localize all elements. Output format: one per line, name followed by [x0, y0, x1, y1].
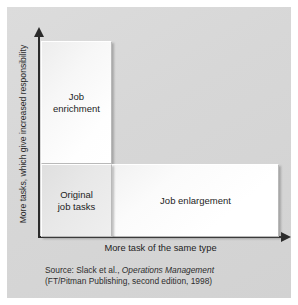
x-axis-arrowhead-icon: [281, 232, 291, 242]
job-design-matrix-figure: Job enrichment Original job tasks Job en…: [0, 0, 298, 305]
box-job-enrichment: Job enrichment: [41, 41, 112, 164]
box-original-job-tasks: Original job tasks: [41, 164, 112, 237]
y-axis-label: More tasks, which give increased respons…: [18, 34, 28, 234]
box-job-enlargement-label: Job enlargement: [160, 195, 231, 207]
x-axis-label: More task of the same type: [38, 243, 283, 253]
box-job-enlargement: Job enlargement: [112, 164, 279, 237]
source-prefix: Source: Slack et al.,: [45, 265, 122, 275]
source-line-1: Source: Slack et al., Operations Managem…: [45, 265, 214, 276]
y-axis-line: [38, 35, 40, 238]
source-citation: Source: Slack et al., Operations Managem…: [45, 265, 214, 287]
y-axis-arrowhead-icon: [34, 27, 44, 37]
figure-panel: Job enrichment Original job tasks Job en…: [7, 7, 291, 298]
box-original-job-tasks-label: Original job tasks: [58, 189, 96, 212]
box-job-enrichment-label: Job enrichment: [53, 91, 100, 114]
source-line-2: (FT/Pitman Publishing, second edition, 1…: [45, 276, 214, 287]
source-book-title: Operations Management: [122, 265, 214, 275]
